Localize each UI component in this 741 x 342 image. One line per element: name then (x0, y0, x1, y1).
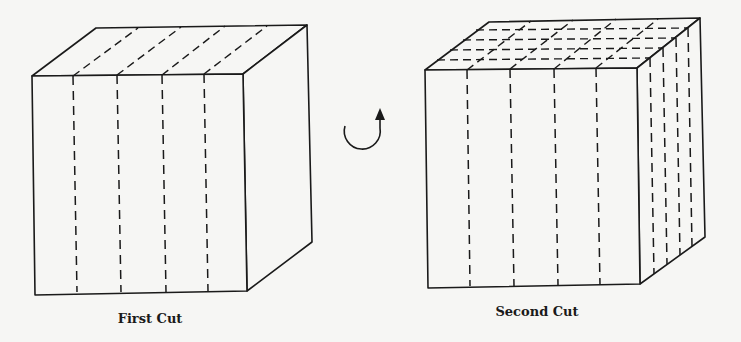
rotation-arrow-icon (344, 108, 385, 149)
cube-cutting-diagram (0, 0, 741, 342)
second-cut-cube (425, 18, 705, 288)
first-cut-cube (32, 25, 312, 295)
first-cube-front-face (32, 74, 247, 295)
second-cube-front-face (425, 68, 640, 288)
second-cut-caption: Second Cut (495, 304, 578, 319)
first-cut-caption: First Cut (118, 311, 183, 326)
